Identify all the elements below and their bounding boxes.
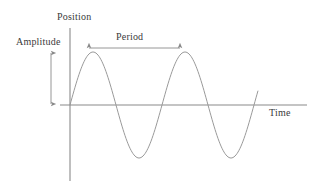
- amplitude-label: Amplitude: [16, 36, 61, 47]
- wave-diagram-canvas: [0, 0, 321, 191]
- period-label: Period: [116, 31, 143, 42]
- y-axis-label: Position: [57, 11, 91, 22]
- x-axis-label: Time: [269, 107, 291, 118]
- wave-diagram: Position Amplitude Period Time: [0, 0, 321, 191]
